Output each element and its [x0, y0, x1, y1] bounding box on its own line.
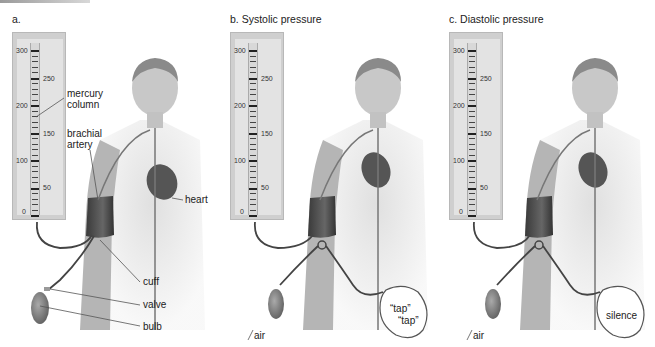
- label-air: air: [473, 330, 484, 341]
- panel-a: a. 300 250 200 150 100 50 0: [0, 0, 215, 347]
- label-valve: valve: [143, 299, 166, 310]
- valve-shape: [44, 287, 50, 291]
- label-heart: heart: [185, 194, 208, 205]
- figure-b-illustration: [218, 0, 438, 347]
- label-sound-silence: silence: [606, 310, 637, 321]
- figure-c-illustration: [437, 0, 655, 347]
- label-sound-tap-2: “tap”: [398, 315, 419, 326]
- label-sound-tap-1: “tap”: [390, 303, 411, 314]
- label-bulb: bulb: [143, 321, 162, 332]
- label-brachial-artery: brachial artery: [67, 128, 102, 150]
- label-mercury-column: mercury column: [67, 88, 103, 110]
- label-cuff: cuff: [143, 276, 159, 287]
- panel-c-diastolic: c. Diastolic pressure 300 250 200 150 10…: [437, 0, 655, 347]
- panel-b-systolic: b. Systolic pressure 300 250 200 150 100…: [218, 0, 438, 347]
- bulb-shape: [31, 292, 49, 324]
- label-air: air: [254, 330, 265, 341]
- figure-a-illustration: [0, 0, 215, 347]
